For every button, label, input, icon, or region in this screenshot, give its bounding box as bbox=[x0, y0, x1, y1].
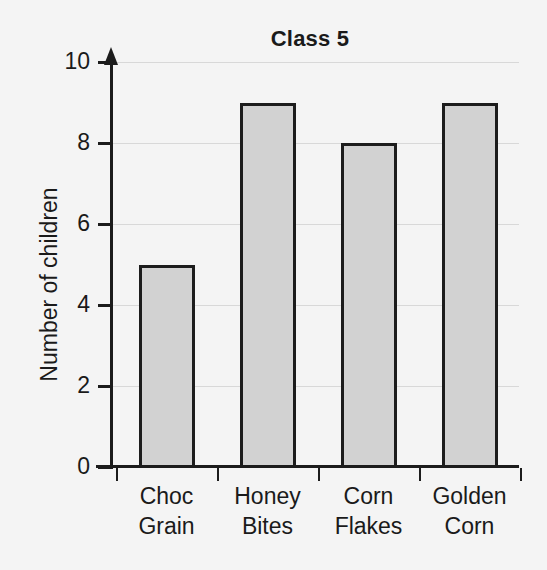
x-axis-label-line: Bites bbox=[210, 511, 325, 541]
y-axis-tick-label-wrap: 10 bbox=[20, 48, 90, 74]
y-axis-tick bbox=[98, 61, 112, 64]
y-axis-tick bbox=[98, 142, 112, 145]
bar bbox=[341, 143, 397, 467]
y-axis-tick bbox=[98, 466, 112, 469]
bar bbox=[139, 265, 195, 468]
y-axis-tick-label: 4 bbox=[28, 291, 90, 318]
plot-area bbox=[113, 62, 519, 467]
y-axis-tick-label-wrap: 6 bbox=[20, 210, 90, 236]
y-axis-tick-label: 6 bbox=[28, 210, 90, 237]
y-axis-line bbox=[110, 62, 113, 469]
y-axis-tick-label-wrap: 4 bbox=[20, 291, 90, 317]
x-axis-tick bbox=[116, 468, 118, 481]
x-axis-label-line: Honey bbox=[210, 481, 325, 511]
x-axis-label-line: Golden bbox=[412, 481, 527, 511]
x-axis-label-line: Flakes bbox=[311, 511, 426, 541]
bar-chart-figure: Class 5 Number of children 0246810 ChocG… bbox=[0, 0, 547, 570]
x-axis-label: HoneyBites bbox=[210, 481, 325, 541]
x-axis-label-line: Choc bbox=[109, 481, 224, 511]
x-axis-label: GoldenCorn bbox=[412, 481, 527, 541]
x-axis-label-line: Corn bbox=[412, 511, 527, 541]
y-axis-tick-label: 0 bbox=[28, 453, 90, 480]
x-axis-label-line: Grain bbox=[109, 511, 224, 541]
x-axis-tick bbox=[419, 468, 421, 481]
chart-title: Class 5 bbox=[185, 26, 435, 52]
y-axis-tick bbox=[98, 304, 112, 307]
y-axis-tick-label: 2 bbox=[28, 372, 90, 399]
x-axis-tick bbox=[217, 468, 219, 481]
bar bbox=[240, 103, 296, 468]
x-axis-tick bbox=[520, 468, 522, 481]
y-axis-tick-label: 10 bbox=[28, 48, 90, 75]
x-axis-label-line: Corn bbox=[311, 481, 426, 511]
y-axis-tick-label-wrap: 2 bbox=[20, 372, 90, 398]
x-axis-line bbox=[96, 465, 519, 468]
y-axis-tick bbox=[98, 385, 112, 388]
y-axis-tick-label: 8 bbox=[28, 129, 90, 156]
gridline bbox=[113, 62, 519, 63]
y-axis-tick-label-wrap: 0 bbox=[20, 453, 90, 479]
y-axis-tick bbox=[98, 223, 112, 226]
bar bbox=[442, 103, 498, 468]
x-axis-label: ChocGrain bbox=[109, 481, 224, 541]
x-axis-tick bbox=[318, 468, 320, 481]
y-axis-tick-label-wrap: 8 bbox=[20, 129, 90, 155]
x-axis-label: CornFlakes bbox=[311, 481, 426, 541]
